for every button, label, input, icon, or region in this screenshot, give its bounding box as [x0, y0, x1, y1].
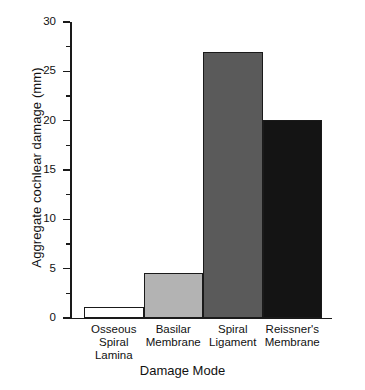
plot-area: 051015202530 Osseous Spiral LaminaBasila… — [0, 0, 365, 390]
y-tick-label: 25 — [16, 65, 56, 77]
y-tick-minor — [66, 293, 70, 294]
y-tick-major — [63, 169, 70, 170]
y-tick-major — [63, 120, 70, 121]
y-axis-line — [70, 22, 72, 319]
y-tick-label: 10 — [16, 213, 56, 225]
bar-1 — [144, 273, 204, 318]
y-tick-minor — [66, 194, 70, 195]
bar-chart-figure: Aggregate cochlear damage (mm) 051015202… — [0, 0, 365, 390]
y-tick-label: 30 — [16, 16, 56, 28]
y-tick-label: 15 — [16, 164, 56, 176]
y-tick-minor — [66, 95, 70, 96]
y-tick-major — [63, 317, 70, 318]
y-tick-label: 20 — [16, 115, 56, 127]
bar-2 — [203, 52, 263, 318]
y-tick-major — [63, 21, 70, 22]
y-tick-minor — [66, 46, 70, 47]
y-tick-minor — [66, 243, 70, 244]
bar-0 — [84, 307, 144, 318]
bar-3 — [263, 120, 323, 318]
x-axis-title: Damage Mode — [0, 363, 365, 378]
x-tick-label-3: Reissner's Membrane — [255, 323, 331, 349]
y-tick-label: 5 — [16, 263, 56, 275]
y-tick-label: 0 — [16, 312, 56, 324]
y-tick-major — [63, 71, 70, 72]
y-tick-minor — [66, 145, 70, 146]
y-tick-major — [63, 268, 70, 269]
y-tick-major — [63, 219, 70, 220]
